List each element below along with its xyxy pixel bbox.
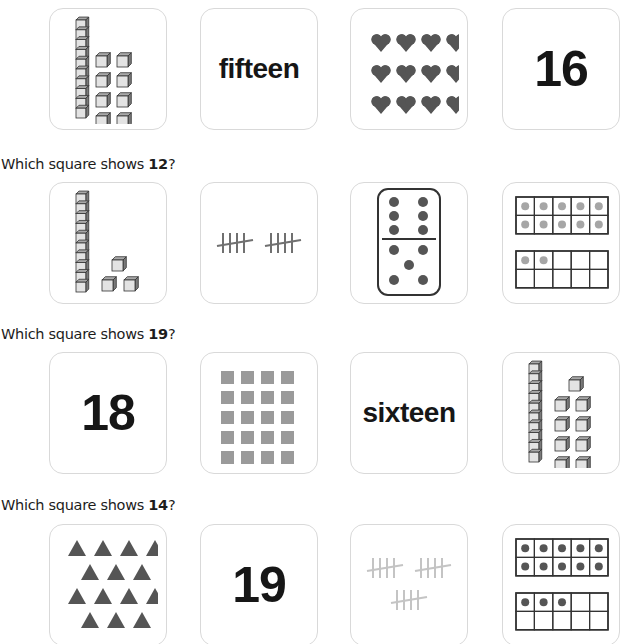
number-word: fifteen: [219, 53, 300, 85]
option-card-numeral-19[interactable]: 19: [200, 524, 318, 644]
question-prompt: Which square shows 19?: [1, 326, 175, 342]
question-prompt: Which square shows 12?: [1, 156, 175, 172]
question-prompt: Which square shows 14?: [1, 497, 175, 513]
target-number: 12: [148, 156, 168, 172]
option-card-base-ten-19[interactable]: [502, 352, 620, 474]
prompt-text: Which square shows: [1, 326, 148, 342]
option-card-word-sixteen[interactable]: sixteen: [350, 352, 468, 474]
option-card-base-ten-18[interactable]: [49, 8, 167, 130]
option-card-word-fifteen[interactable]: fifteen: [200, 8, 318, 130]
numeral: 18: [81, 384, 135, 442]
option-card-tally-15[interactable]: [350, 524, 468, 644]
squares-icon: [211, 361, 307, 465]
numeral: 16: [534, 40, 588, 98]
target-number: 14: [148, 497, 168, 513]
option-card-ten-frames-12[interactable]: [502, 182, 620, 304]
tally-marks-icon: [209, 223, 309, 263]
option-card-numeral-18[interactable]: 18: [49, 352, 167, 474]
ten-frames-icon: [513, 535, 609, 635]
option-card-tally-10[interactable]: [200, 182, 318, 304]
prompt-suffix: ?: [168, 326, 175, 342]
option-card-domino[interactable]: [350, 182, 468, 304]
target-number: 19: [148, 326, 168, 342]
tally-marks-icon: [359, 550, 459, 620]
number-word: sixteen: [363, 397, 456, 429]
numeral: 19: [232, 556, 286, 614]
base-ten-blocks-icon: [58, 14, 158, 124]
ten-frames-icon: [513, 193, 609, 293]
option-card-squares[interactable]: [200, 352, 318, 474]
option-card-ten-frames-13[interactable]: [502, 524, 620, 644]
base-ten-blocks-icon: [511, 358, 611, 468]
option-card-base-ten-13[interactable]: [49, 182, 167, 304]
option-card-numeral-16[interactable]: 16: [502, 8, 620, 130]
option-card-triangles[interactable]: [49, 524, 167, 644]
prompt-suffix: ?: [168, 156, 175, 172]
base-ten-blocks-icon: [58, 188, 158, 298]
option-card-hearts[interactable]: [350, 8, 468, 130]
prompt-text: Which square shows: [1, 156, 148, 172]
prompt-text: Which square shows: [1, 497, 148, 513]
hearts-icon: [359, 19, 459, 119]
domino-icon: [374, 187, 444, 299]
prompt-suffix: ?: [168, 497, 175, 513]
triangles-icon: [58, 532, 158, 638]
